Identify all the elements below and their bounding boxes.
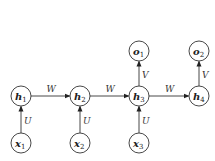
node-x1: x1 bbox=[11, 133, 31, 153]
node-x2: x2 bbox=[70, 133, 90, 153]
edge-x3-h3: U bbox=[139, 107, 150, 134]
edge-label: U bbox=[83, 116, 91, 126]
edge-h4-o2: V bbox=[199, 62, 210, 87]
edge-label: W bbox=[165, 84, 175, 94]
node-h4: h4 bbox=[189, 86, 209, 106]
node-o2: o2 bbox=[189, 41, 209, 61]
edge-label: V bbox=[202, 70, 210, 80]
node-h3: h3 bbox=[129, 86, 149, 106]
edge-label: V bbox=[142, 70, 150, 80]
edge-h2-h3: W bbox=[90, 84, 129, 96]
node-x3: x3 bbox=[129, 133, 149, 153]
edge-x2-h2: U bbox=[80, 107, 91, 134]
node-h1: h1 bbox=[11, 86, 31, 106]
edge-x1-h1: U bbox=[21, 107, 32, 134]
edge-h3-o1: V bbox=[139, 62, 150, 87]
rnn-diagram: WWWUUUVV h1h2h3h4x1x2x3o1o2 bbox=[0, 0, 215, 161]
edge-label: U bbox=[142, 116, 150, 126]
node-h2: h2 bbox=[70, 86, 90, 106]
edge-h3-h4: W bbox=[149, 84, 189, 96]
edge-h1-h2: W bbox=[31, 84, 70, 96]
edge-label: W bbox=[106, 84, 116, 94]
edge-label: W bbox=[47, 84, 57, 94]
edge-label: U bbox=[24, 116, 32, 126]
node-o1: o1 bbox=[129, 41, 149, 61]
